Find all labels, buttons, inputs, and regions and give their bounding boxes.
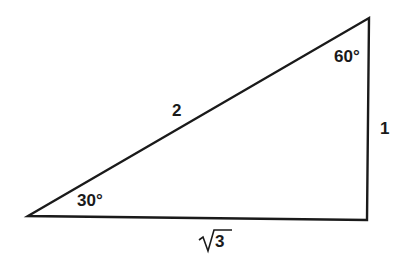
side-label-hypotenuse: 2	[172, 102, 181, 119]
side-label-base: 3	[215, 233, 224, 250]
side-label-vertical: 1	[380, 120, 389, 137]
angle-label-30: 30°	[77, 192, 103, 209]
triangle-shape	[0, 0, 406, 270]
angle-label-60: 60°	[334, 48, 360, 65]
triangle-diagram: 60° 2 1 30° 3	[0, 0, 406, 270]
